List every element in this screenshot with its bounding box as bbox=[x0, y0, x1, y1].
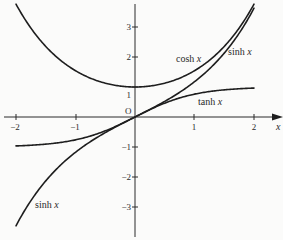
y-tick-label: −2 bbox=[121, 172, 131, 182]
sinh-label-lower: sinh x bbox=[35, 199, 59, 210]
x-tick-label: −2 bbox=[10, 122, 20, 132]
y-tick-label: 2 bbox=[127, 52, 132, 62]
hyperbolic-functions-chart: −2 −1 1 2 3 2 1 −1 −2 −3 O x cosh x sinh… bbox=[0, 0, 283, 240]
y-tick-label: 3 bbox=[127, 22, 132, 32]
origin-label: O bbox=[125, 106, 132, 116]
x-tick-label: 1 bbox=[192, 122, 197, 132]
y-tick-label: 1 bbox=[127, 90, 132, 100]
x-tick-label: 2 bbox=[252, 122, 257, 132]
x-tick-label: −1 bbox=[70, 122, 80, 132]
x-axis-arrow-icon bbox=[272, 114, 283, 121]
cosh-label: cosh x bbox=[176, 53, 202, 64]
sinh-label-upper: sinh x bbox=[228, 46, 252, 57]
y-tick-label: −3 bbox=[121, 202, 131, 212]
y-tick-label: −1 bbox=[121, 142, 131, 152]
x-tick-labels: −2 −1 1 2 bbox=[10, 122, 256, 132]
tanh-label: tanh x bbox=[198, 96, 223, 107]
x-axis-label: x bbox=[275, 121, 281, 132]
